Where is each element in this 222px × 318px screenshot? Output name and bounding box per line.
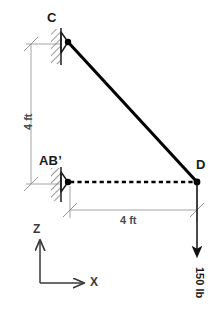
diagram-vector-layer [0, 0, 222, 318]
wall-hatch-c [51, 29, 61, 64]
support-c-wall [51, 28, 61, 65]
label-dimension-vertical: 4 ft [22, 114, 34, 131]
label-point-d: D [196, 157, 206, 172]
diagram-canvas: C AB’ D 4 ft 4 ft 150 lb Z X [0, 0, 222, 318]
label-point-c: C [47, 10, 57, 25]
support-ab-wall [51, 167, 61, 202]
member-cd [68, 42, 197, 182]
label-axis-z: Z [33, 222, 40, 236]
label-axis-x: X [90, 275, 98, 289]
label-point-ab: AB’ [39, 153, 62, 168]
coordinate-axes [40, 240, 84, 283]
label-dimension-horizontal: 4 ft [120, 214, 137, 226]
label-force-magnitude: 150 lb [194, 267, 206, 298]
wall-hatch-ab [51, 168, 61, 201]
